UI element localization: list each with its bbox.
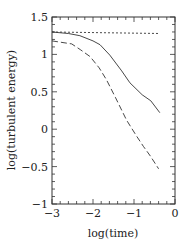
series-solid-line <box>52 32 160 113</box>
x-tick-label: −1 <box>126 207 142 220</box>
y-tick-label: 0 <box>41 123 48 136</box>
x-axis-label: log(time) <box>88 227 139 240</box>
data-series <box>52 32 160 169</box>
y-tick-label: 1.5 <box>31 11 49 24</box>
axis-tick-labels: −3−2−10−1−0.500.511.5 <box>21 11 178 220</box>
y-tick-label: 1 <box>41 48 48 61</box>
x-tick-label: 0 <box>172 207 179 220</box>
y-tick-label: −1 <box>32 198 48 211</box>
plot-frame <box>52 17 175 204</box>
axis-ticks <box>52 17 175 204</box>
plot-area <box>52 17 175 204</box>
y-tick-label: −0.5 <box>21 161 48 174</box>
y-tick-label: 0.5 <box>31 86 49 99</box>
x-tick-label: −2 <box>85 207 101 220</box>
y-axis-label: log(turbulent energy) <box>5 50 18 170</box>
series-dashed-line <box>52 41 159 169</box>
line-chart: −3−2−10−1−0.500.511.5 log(time) log(turb… <box>0 0 186 246</box>
